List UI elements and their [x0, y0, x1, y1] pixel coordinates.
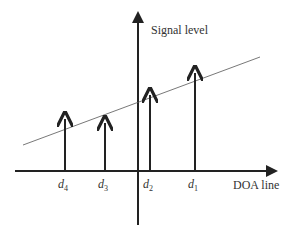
label-d1: d1: [188, 177, 198, 193]
label-d4: d4: [58, 177, 68, 193]
threshold-line: [23, 57, 260, 145]
x-axis-label: DOA line: [233, 178, 279, 193]
y-axis-label: Signal level: [151, 23, 208, 38]
label-d2: d2: [143, 177, 153, 193]
diagram-canvas: [0, 0, 293, 236]
label-d3: d3: [98, 177, 108, 193]
